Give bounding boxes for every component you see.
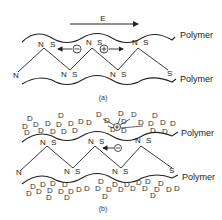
polymer-bottom-label: Polymer	[182, 172, 215, 182]
svg-text:D: D	[61, 127, 67, 136]
atom-s: S	[50, 40, 55, 49]
svg-text:D: D	[150, 126, 156, 135]
molecular-chain	[18, 48, 168, 72]
svg-text:D: D	[46, 193, 52, 202]
atom-s: S	[99, 137, 104, 146]
diagram-canvas: E Polymer N S N S N S N N S N S S Polyme…	[0, 0, 222, 220]
svg-text:D: D	[118, 185, 124, 194]
atom-s: S	[123, 167, 128, 176]
svg-text:D: D	[26, 189, 32, 198]
svg-text:D: D	[142, 184, 148, 193]
atom-n: N	[64, 167, 70, 176]
svg-text:D: D	[174, 184, 180, 193]
svg-text:D: D	[96, 110, 102, 119]
svg-text:D: D	[130, 184, 136, 193]
atom-n: N	[88, 137, 94, 146]
atom-n: N	[112, 167, 118, 176]
svg-text:D: D	[76, 185, 82, 194]
svg-text:D: D	[170, 119, 176, 128]
atom-n: N	[16, 168, 22, 177]
field-label: E	[100, 14, 105, 23]
svg-text:D: D	[50, 127, 56, 136]
panel-b: D D D D D D D D D D D D D D D D D D D D …	[16, 109, 215, 213]
molecular-chain	[20, 146, 172, 171]
atom-n: N	[86, 38, 92, 47]
atom-n: N	[40, 138, 46, 147]
svg-text:D: D	[150, 191, 156, 200]
svg-text:D: D	[64, 193, 70, 202]
dopant-cloud-bottom: D D D D D D D D D D D D D D D D D D D D …	[26, 177, 180, 202]
caption-b: (b)	[99, 205, 108, 213]
svg-text:D: D	[138, 118, 144, 127]
atom-s: S	[51, 138, 56, 147]
atom-n: N	[13, 71, 19, 80]
svg-text:D: D	[84, 184, 90, 193]
svg-text:D: D	[58, 111, 64, 120]
atom-n: N	[132, 38, 138, 47]
atom-s: S	[169, 166, 174, 175]
caption-a: (a)	[99, 94, 108, 102]
svg-text:D: D	[104, 116, 110, 125]
atom-s: S	[121, 70, 126, 79]
panel-a: E Polymer N S N S N S N N S N S S Polyme…	[13, 14, 213, 102]
atom-n: N	[135, 136, 141, 145]
svg-text:D: D	[78, 117, 84, 126]
atom-s: S	[72, 70, 77, 79]
polymer-bottom-wave	[22, 76, 176, 85]
svg-text:D: D	[102, 192, 108, 201]
svg-text:D: D	[36, 187, 42, 196]
polymer-top-label: Polymer	[180, 30, 213, 40]
polymer-bottom-label: Polymer	[180, 74, 213, 84]
atom-s: S	[75, 167, 80, 176]
svg-text:D: D	[72, 126, 78, 135]
atom-n: N	[61, 70, 67, 79]
svg-text:D: D	[166, 185, 172, 194]
svg-text:D: D	[160, 118, 166, 127]
svg-text:D: D	[131, 110, 137, 119]
atom-s: S	[146, 136, 151, 145]
atom-s: S	[143, 38, 148, 47]
svg-text:D: D	[86, 118, 92, 127]
polymer-top-label: Polymer	[181, 128, 214, 138]
svg-text:D: D	[95, 184, 101, 193]
atom-n: N	[110, 70, 116, 79]
atom-s: S	[167, 69, 172, 78]
atom-n: N	[38, 40, 44, 49]
svg-text:D: D	[24, 128, 30, 137]
